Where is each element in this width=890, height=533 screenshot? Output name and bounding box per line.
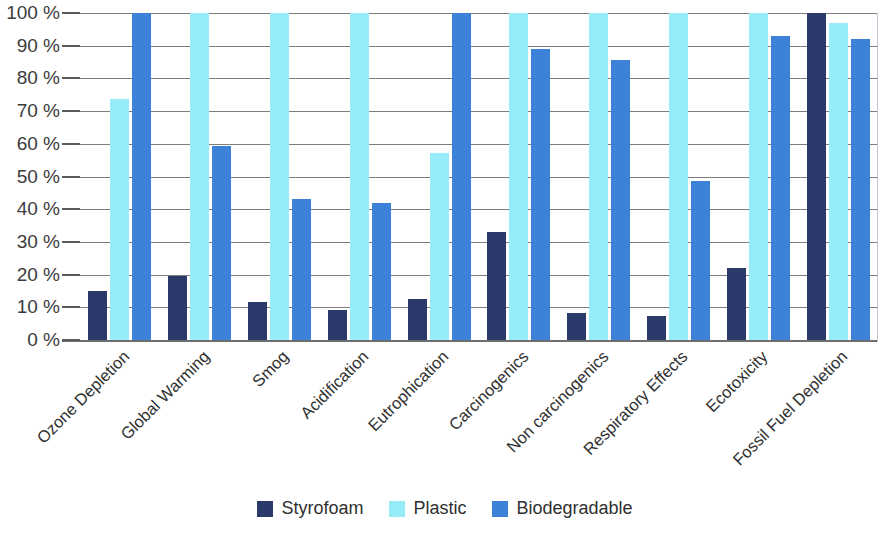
bar[interactable] [408, 299, 427, 340]
y-axis-tick-mark [62, 339, 80, 341]
y-axis-tick-mark [62, 143, 80, 145]
legend-swatch-icon [492, 501, 508, 517]
bar[interactable] [691, 181, 710, 340]
bar[interactable] [168, 276, 187, 340]
legend-label: Styrofoam [281, 498, 363, 519]
legend-swatch-icon [257, 501, 273, 517]
legend-swatch-icon [389, 501, 405, 517]
y-axis-tick-label: 50 % [17, 166, 60, 188]
bar[interactable] [372, 203, 391, 340]
bar[interactable] [212, 146, 231, 340]
bar[interactable] [350, 13, 369, 340]
legend-item[interactable]: Plastic [389, 498, 466, 519]
bar-group [399, 13, 479, 340]
x-axis-label-slot: Global Warming [160, 341, 240, 491]
y-axis-tick-label: 70 % [17, 100, 60, 122]
legend-label: Biodegradable [516, 498, 632, 519]
x-axis-category-labels: Ozone DepletionGlobal WarmingSmogAcidifi… [80, 341, 878, 491]
y-axis-tick-mark [62, 77, 80, 79]
bar-group [80, 13, 160, 340]
y-axis-tick-label: 30 % [17, 231, 60, 253]
y-axis-tick-label: 10 % [17, 296, 60, 318]
bar[interactable] [807, 13, 826, 340]
bar[interactable] [727, 268, 746, 340]
y-axis-tick-mark [62, 306, 80, 308]
y-axis: 100 %90 %80 %70 %60 %50 %40 %30 %20 %10 … [0, 0, 62, 355]
bar-group [479, 13, 559, 340]
bar[interactable] [771, 36, 790, 340]
bar[interactable] [487, 232, 506, 340]
bar[interactable] [248, 302, 267, 340]
bar-group [798, 13, 878, 340]
bar-group [639, 13, 719, 340]
bar[interactable] [132, 13, 151, 340]
y-axis-tick-label: 60 % [17, 133, 60, 155]
y-axis-tick-mark [62, 274, 80, 276]
legend-item[interactable]: Styrofoam [257, 498, 363, 519]
y-axis-tick-mark [62, 45, 80, 47]
bar[interactable] [88, 291, 107, 340]
y-axis-tick-mark [62, 241, 80, 243]
bar[interactable] [851, 39, 870, 340]
bar[interactable] [749, 13, 768, 340]
bar[interactable] [531, 49, 550, 340]
bar-group [718, 13, 798, 340]
bar[interactable] [452, 13, 471, 340]
x-axis-label-slot: Respiratory Effects [639, 341, 719, 491]
legend-item[interactable]: Biodegradable [492, 498, 632, 519]
bar-group [319, 13, 399, 340]
bar[interactable] [589, 13, 608, 340]
bar[interactable] [190, 13, 209, 340]
y-axis-tick-label: 100 % [6, 2, 60, 24]
bar[interactable] [328, 310, 347, 340]
legend-label: Plastic [413, 498, 466, 519]
bar[interactable] [611, 60, 630, 340]
y-axis-tick-mark [62, 208, 80, 210]
y-axis-tick-mark [62, 110, 80, 112]
y-axis-tick-label: 40 % [17, 198, 60, 220]
bar[interactable] [567, 313, 586, 340]
y-axis-tick-label: 0 % [27, 329, 60, 351]
y-axis-tick-label: 20 % [17, 264, 60, 286]
bar[interactable] [110, 99, 129, 340]
bar[interactable] [270, 13, 289, 340]
bar-group [559, 13, 639, 340]
bar[interactable] [647, 316, 666, 340]
y-axis-tick-label: 80 % [17, 67, 60, 89]
x-axis-tick-label: Smog [249, 347, 293, 391]
bar[interactable] [292, 199, 311, 340]
chart-legend: StyrofoamPlasticBiodegradable [0, 498, 890, 519]
plot-right-border [877, 13, 878, 342]
bar[interactable] [669, 13, 688, 340]
bar[interactable] [829, 23, 848, 340]
y-axis-tick-mark [62, 12, 80, 14]
y-axis-tick-mark [62, 176, 80, 178]
bar-chart: 100 %90 %80 %70 %60 %50 %40 %30 %20 %10 … [0, 0, 890, 533]
bar[interactable] [430, 153, 449, 340]
plot-area [80, 13, 878, 340]
y-axis-tick-label: 90 % [17, 35, 60, 57]
bar-groups [80, 13, 878, 340]
plot-wrapper: 100 %90 %80 %70 %60 %50 %40 %30 %20 %10 … [0, 0, 890, 355]
bar[interactable] [509, 13, 528, 340]
bar-group [160, 13, 240, 340]
bar-group [240, 13, 320, 340]
x-axis-label-slot: Fossil Fuel Depletion [798, 341, 878, 491]
